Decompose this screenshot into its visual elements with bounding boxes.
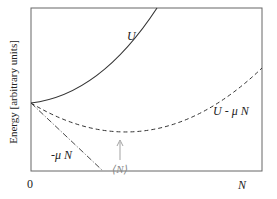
- plot-area: [0, 0, 277, 199]
- u-curve: [31, 8, 157, 103]
- u-label: U: [127, 29, 136, 44]
- u-minus-mun-curve: [31, 68, 262, 132]
- mean-n-label: ⟨N⟩: [112, 163, 128, 176]
- minus-mun-label: -μ N: [51, 148, 72, 163]
- y-axis-label: Energy [arbitrary units]: [7, 37, 19, 147]
- x-tick-n: N: [238, 178, 246, 193]
- x-tick-0: 0: [27, 177, 33, 192]
- u-minus-mun-label: U - μ N: [213, 104, 249, 119]
- energy-diagram: U U - μ N -μ N ⟨N⟩ Energy [arbitrary uni…: [0, 0, 277, 199]
